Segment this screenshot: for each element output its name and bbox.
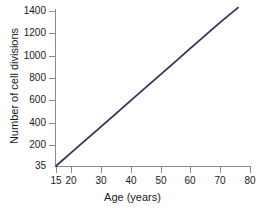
series-line xyxy=(0,0,265,208)
y-axis-title: Number of cell divisions xyxy=(8,6,20,166)
chart-figure: 1400 1200 1000 800 600 400 200 35 15 20 … xyxy=(0,0,265,208)
x-axis-title: Age (years) xyxy=(0,191,265,203)
